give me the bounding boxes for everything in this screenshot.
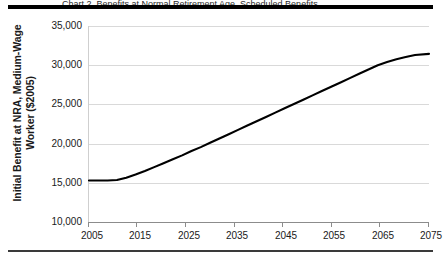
- x-tick: [185, 222, 186, 227]
- x-tick-label: 2035: [215, 231, 259, 241]
- series-line-chart: [89, 26, 429, 222]
- y-tick-label: 25,000: [28, 99, 82, 109]
- x-tick: [282, 222, 283, 227]
- x-tick-label: 2005: [70, 231, 114, 241]
- x-tick-label: 2025: [167, 231, 211, 241]
- series-path-benefit: [89, 54, 429, 181]
- x-tick-label: 2015: [118, 231, 162, 241]
- x-tick: [379, 222, 380, 227]
- x-tick: [428, 222, 429, 227]
- x-tick: [136, 222, 137, 227]
- x-tick: [234, 222, 235, 227]
- x-tick-marks: [88, 222, 429, 228]
- x-tick: [88, 222, 89, 227]
- y-tick-label: 35,000: [28, 21, 82, 31]
- x-tick-label: 2055: [312, 231, 356, 241]
- y-tick-label: 10,000: [28, 217, 82, 227]
- bottom-rule: [8, 250, 433, 252]
- x-tick-label: 2075: [409, 231, 447, 241]
- x-tick: [331, 222, 332, 227]
- x-tick-label: 2045: [264, 231, 308, 241]
- y-tick-label: 30,000: [28, 60, 82, 70]
- x-tick-label: 2065: [361, 231, 405, 241]
- plot-area: [88, 26, 429, 222]
- y-tick-label: 15,000: [28, 178, 82, 188]
- y-tick-label: 20,000: [28, 139, 82, 149]
